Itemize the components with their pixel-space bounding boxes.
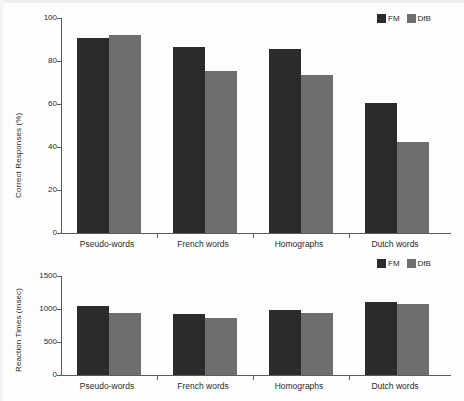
- reaction-ytick-1000: 1000: [31, 305, 57, 313]
- reaction-xtick-1: [157, 376, 158, 380]
- rt-legend-item-fm: FM: [377, 259, 400, 268]
- reaction-times-chart-panel: Reaction Times (msec) 1500 1000 500 0 Ps…: [0, 252, 464, 401]
- accuracy-x-axis-line: [61, 233, 451, 234]
- accuracy-ytick-100: 100: [31, 14, 57, 22]
- accuracy-tickmark-80: [57, 61, 61, 62]
- rt-bar-fm-pseudo-words: [77, 306, 109, 375]
- rt-bar-dfb-pseudo-words: [109, 313, 141, 375]
- reaction-y-axis-label: Reaction Times (msec): [14, 288, 23, 372]
- rt-legend-item-dfb: DfB: [407, 259, 431, 268]
- bar-fm-dutch-words: [365, 103, 397, 233]
- rt-bar-fm-dutch-words: [365, 302, 397, 375]
- bar-dfb-dutch-words: [397, 142, 429, 233]
- legend-item-fm: FM: [377, 14, 400, 23]
- reaction-xlabel-homographs: Homographs: [251, 381, 347, 391]
- legend-label-fm: FM: [388, 14, 400, 23]
- accuracy-tickmark-0: [57, 233, 61, 234]
- bar-fm-pseudo-words: [77, 38, 109, 233]
- bar-fm-homographs: [269, 49, 301, 233]
- accuracy-tickmark-20: [57, 190, 61, 191]
- rt-bar-fm-french-words: [173, 314, 205, 375]
- reaction-xtick-3: [349, 376, 350, 380]
- accuracy-y-axis-label: Correct Responses (%): [14, 113, 23, 198]
- rt-bar-fm-homographs: [269, 310, 301, 375]
- rt-legend-label-fm: FM: [388, 259, 400, 268]
- reaction-x-axis-line: [61, 375, 451, 376]
- reaction-tickmark-1000: [57, 309, 61, 310]
- accuracy-xlabel-pseudo-words: Pseudo-words: [59, 239, 155, 249]
- accuracy-ytick-40: 40: [31, 143, 57, 151]
- bar-fm-french-words: [173, 47, 205, 233]
- rt-bar-dfb-dutch-words: [397, 304, 429, 375]
- bar-dfb-homographs: [301, 75, 333, 233]
- reaction-legend: FM DfB: [377, 259, 431, 268]
- rt-bar-dfb-homographs: [301, 313, 333, 375]
- rt-legend-label-dfb: DfB: [418, 259, 431, 268]
- accuracy-tickmark-60: [57, 104, 61, 105]
- accuracy-tickmark-100: [57, 18, 61, 19]
- legend-item-dfb: DfB: [407, 14, 431, 23]
- accuracy-chart-panel: Correct Responses (%) 100 80 60 40 20 0 …: [0, 0, 464, 252]
- accuracy-xtick-2: [253, 234, 254, 238]
- reaction-tickmark-1500: [57, 276, 61, 277]
- accuracy-ytick-80: 80: [31, 57, 57, 65]
- legend-swatch-fm-icon: [377, 14, 386, 23]
- rt-legend-swatch-fm-icon: [377, 259, 386, 268]
- accuracy-legend: FM DfB: [377, 14, 431, 23]
- accuracy-ytick-0: 0: [31, 229, 57, 237]
- rt-legend-swatch-dfb-icon: [407, 259, 416, 268]
- accuracy-ytick-20: 20: [31, 186, 57, 194]
- accuracy-xlabel-dutch-words: Dutch words: [347, 239, 443, 249]
- reaction-ytick-1500: 1500: [31, 272, 57, 280]
- reaction-plot-area: [62, 276, 451, 375]
- legend-label-dfb: DfB: [418, 14, 431, 23]
- rt-bar-dfb-french-words: [205, 318, 237, 375]
- bar-dfb-french-words: [205, 71, 237, 233]
- reaction-ytick-500: 500: [31, 338, 57, 346]
- bar-dfb-pseudo-words: [109, 35, 141, 233]
- accuracy-xtick-1: [157, 234, 158, 238]
- accuracy-xlabel-french-words: French words: [155, 239, 251, 249]
- accuracy-plot-area: [62, 18, 451, 233]
- accuracy-xlabel-homographs: Homographs: [251, 239, 347, 249]
- reaction-ytick-0: 0: [31, 371, 57, 379]
- accuracy-ytick-60: 60: [31, 100, 57, 108]
- accuracy-xtick-3: [349, 234, 350, 238]
- legend-swatch-dfb-icon: [407, 14, 416, 23]
- reaction-xlabel-pseudo-words: Pseudo-words: [59, 381, 155, 391]
- reaction-xtick-2: [253, 376, 254, 380]
- reaction-xlabel-french-words: French words: [155, 381, 251, 391]
- reaction-tickmark-0: [57, 375, 61, 376]
- accuracy-tickmark-40: [57, 147, 61, 148]
- reaction-xlabel-dutch-words: Dutch words: [347, 381, 443, 391]
- reaction-tickmark-500: [57, 342, 61, 343]
